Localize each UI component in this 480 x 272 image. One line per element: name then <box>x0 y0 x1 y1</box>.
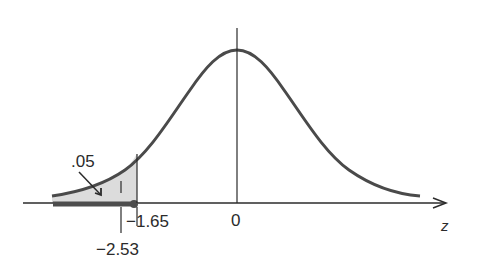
critical-value-label: −1.65 <box>126 212 169 231</box>
bell-curve <box>52 50 420 196</box>
observed-value-label: −2.53 <box>96 240 139 259</box>
z-axis-label: z <box>440 217 449 234</box>
zero-label: 0 <box>231 211 240 230</box>
area-label: .05 <box>71 152 95 171</box>
normal-curve-diagram: .05 −1.65 −2.53 0 z <box>0 0 480 272</box>
